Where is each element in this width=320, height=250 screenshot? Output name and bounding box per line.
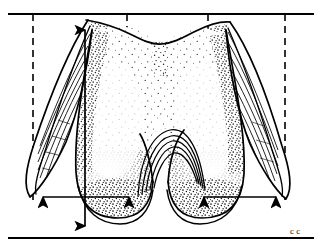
caption-mark: c c (290, 226, 300, 236)
figure-canvas: c c (0, 0, 320, 250)
bone-silhouette (20, 18, 300, 226)
anatomical-figure: c c (0, 0, 320, 250)
